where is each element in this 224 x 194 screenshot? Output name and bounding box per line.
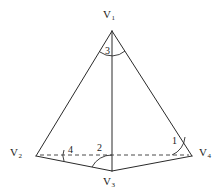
vertex-label-v4-base: V xyxy=(199,146,207,158)
vertex-label-v4: V4 xyxy=(199,147,210,158)
vertex-label-v3-sub: 3 xyxy=(111,181,115,189)
vertex-label-v3: V3 xyxy=(103,176,114,187)
tetrahedron-figure: V1 V2 V3 V4 1 2 3 4 xyxy=(0,0,224,194)
angle-label-1: 1 xyxy=(172,136,177,146)
angle-label-3: 3 xyxy=(105,46,110,56)
angle-label-4: 4 xyxy=(68,145,73,155)
vertex-label-v2-base: V xyxy=(10,146,18,158)
edge-v3-v4 xyxy=(112,156,192,171)
edge-v1-v2 xyxy=(36,31,112,156)
vertex-label-v2-sub: 2 xyxy=(18,152,22,160)
vertex-label-v1-sub: 1 xyxy=(111,14,115,22)
vertex-label-v3-base: V xyxy=(103,175,111,187)
vertex-label-v1-base: V xyxy=(103,8,111,20)
angle-arc-2 xyxy=(92,155,112,167)
edge-v1-v4 xyxy=(112,31,192,156)
vertex-label-v4-sub: 4 xyxy=(207,152,211,160)
vertex-label-v1: V1 xyxy=(103,9,114,20)
vertex-label-v2: V2 xyxy=(10,147,21,158)
angle-label-2: 2 xyxy=(97,143,102,153)
figure-canvas xyxy=(0,0,224,194)
